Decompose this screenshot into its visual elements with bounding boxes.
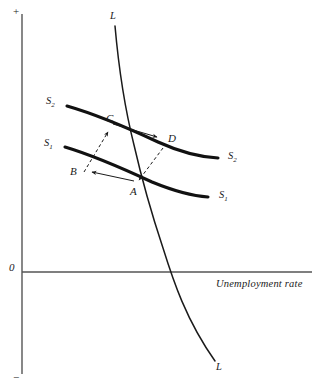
point-label-a: A	[130, 186, 137, 197]
arrow-d-to-a	[139, 148, 163, 180]
curve-label-s1-right-sub: 1	[224, 195, 228, 203]
y-axis-negative-sign: −	[13, 372, 19, 383]
arrow-b-to-c	[84, 132, 108, 172]
curve-label-s2-right-sub: 2	[233, 156, 237, 164]
curve-label-s2-left-sub: 2	[51, 101, 55, 109]
phillips-curve-figure: + − 0 Unemployment rate L L S2 S1 S2 S1 …	[0, 0, 318, 387]
arrow-c-to-d	[113, 124, 157, 137]
curve-label-s1-right: S1	[219, 190, 228, 203]
origin-label: 0	[9, 262, 15, 273]
x-axis-label: Unemployment rate	[216, 279, 303, 290]
point-label-c: C	[106, 113, 113, 124]
curve-label-s1-left-sub: 1	[49, 143, 53, 151]
arrow-a-to-b	[92, 172, 134, 181]
curve-label-l-bottom: L	[216, 362, 222, 373]
curve-label-s2-right: S2	[228, 151, 237, 164]
curve-label-s1-left: S1	[44, 138, 53, 151]
point-label-d: D	[168, 133, 176, 144]
curve-label-l-top: L	[110, 11, 116, 22]
curve-label-s2-left: S2	[46, 96, 55, 109]
short-run-curve-s2	[67, 106, 218, 158]
point-label-b: B	[70, 166, 77, 177]
diagram-canvas	[0, 0, 318, 387]
y-axis-positive-sign: +	[13, 6, 19, 17]
